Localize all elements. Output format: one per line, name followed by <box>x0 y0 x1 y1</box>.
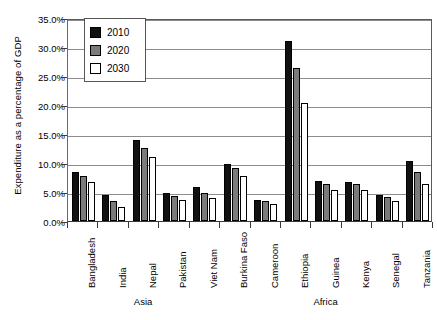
bar-group <box>190 20 220 221</box>
bar <box>193 187 200 221</box>
x-axis-category-label: Tanzania <box>421 250 432 288</box>
x-axis-category-label: Nepal <box>147 263 158 288</box>
legend-entry-2020: 2020 <box>90 41 140 59</box>
x-axis-category-label: India <box>117 267 128 288</box>
bar <box>406 161 413 221</box>
bar-group <box>220 20 250 221</box>
y-axis-tick-label: 5.0% <box>5 188 65 199</box>
x-axis-tick <box>97 222 98 228</box>
bar <box>209 198 216 221</box>
bar <box>331 190 338 221</box>
x-axis-category-label: Cameroon <box>269 244 280 288</box>
white-swatch-icon <box>90 63 101 74</box>
bar <box>254 200 261 221</box>
bar <box>315 181 322 221</box>
bar <box>240 176 247 221</box>
y-axis-tick-label: 35.0% <box>5 14 65 25</box>
bar <box>301 103 308 221</box>
bar <box>179 200 186 221</box>
bar-group <box>342 20 372 221</box>
x-axis-tick <box>310 222 311 228</box>
gray-swatch-icon <box>90 45 101 56</box>
bar <box>141 148 148 221</box>
bar <box>345 182 352 221</box>
black-swatch-icon <box>90 27 101 38</box>
bar <box>285 41 292 221</box>
bar <box>353 184 360 221</box>
bar <box>163 193 170 221</box>
bar <box>262 201 269 221</box>
x-axis-category-label: Burkina Faso <box>238 232 249 288</box>
bar <box>323 184 330 221</box>
bar <box>293 68 300 221</box>
y-axis-tick-label: 25.0% <box>5 72 65 83</box>
x-axis-tick <box>128 222 129 228</box>
legend-label: 2020 <box>107 45 129 56</box>
y-axis-tick-label: 20.0% <box>5 101 65 112</box>
x-axis-tick <box>67 222 68 228</box>
bar <box>201 193 208 221</box>
region-group-label: Asia <box>134 296 152 307</box>
y-axis-tick-label: 15.0% <box>5 130 65 141</box>
bar <box>80 176 87 221</box>
bar-chart: Expenditure as a percentage of GDP 0.0%5… <box>0 0 437 320</box>
x-axis-tick <box>189 222 190 228</box>
bar-group <box>251 20 281 221</box>
bar-group <box>311 20 341 221</box>
x-axis-tick <box>432 222 433 228</box>
bar <box>88 182 95 221</box>
bar <box>361 190 368 221</box>
y-axis-tick-label: 0.0% <box>5 217 65 228</box>
bar <box>102 195 109 221</box>
x-axis-tick <box>280 222 281 228</box>
x-axis-tick <box>341 222 342 228</box>
x-axis-category-label: Guinea <box>330 257 341 288</box>
bar <box>149 157 156 221</box>
x-axis-tick <box>371 222 372 228</box>
bar <box>422 184 429 221</box>
bar-group <box>159 20 189 221</box>
y-axis-tick-label: 30.0% <box>5 43 65 54</box>
bar-group <box>372 20 402 221</box>
bar <box>118 207 125 222</box>
y-axis-tick-label: 10.0% <box>5 159 65 170</box>
bar <box>110 201 117 221</box>
bar <box>133 140 140 221</box>
x-axis-category-label: Bangladesh <box>86 238 97 288</box>
bar <box>270 204 277 221</box>
x-axis-tick <box>250 222 251 228</box>
x-axis-tick <box>402 222 403 228</box>
x-axis-tick <box>158 222 159 228</box>
legend-label: 2010 <box>107 27 129 38</box>
bar <box>384 197 391 221</box>
bar <box>224 164 231 221</box>
legend: 2010 2020 2030 <box>84 18 146 82</box>
legend-entry-2010: 2010 <box>90 23 140 41</box>
x-axis-category-label: Kenya <box>360 261 371 288</box>
legend-label: 2030 <box>107 63 129 74</box>
x-axis-category-label: Pakistan <box>177 252 188 288</box>
bar <box>376 195 383 221</box>
bar <box>232 168 239 221</box>
bar <box>171 196 178 221</box>
x-axis-tick <box>219 222 220 228</box>
bar <box>392 201 399 221</box>
x-axis-category-label: Viet Nam <box>208 249 219 288</box>
bar <box>414 172 421 221</box>
legend-entry-2030: 2030 <box>90 59 140 77</box>
bar-group <box>403 20 433 221</box>
x-axis-category-label: Ethiopia <box>299 254 310 288</box>
region-group-label: Africa <box>313 296 337 307</box>
x-axis-category-label: Senegal <box>390 253 401 288</box>
bar-group <box>281 20 311 221</box>
bar <box>72 172 79 221</box>
